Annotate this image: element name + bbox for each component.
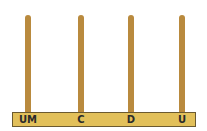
abacus-base <box>12 112 196 127</box>
label-c: C <box>77 113 84 126</box>
rod-d <box>128 15 134 114</box>
label-um: UM <box>19 113 37 126</box>
label-d: D <box>127 113 135 126</box>
rod-um <box>25 15 31 114</box>
rod-u <box>179 15 185 114</box>
rod-c <box>78 15 84 114</box>
label-u: U <box>178 113 186 126</box>
